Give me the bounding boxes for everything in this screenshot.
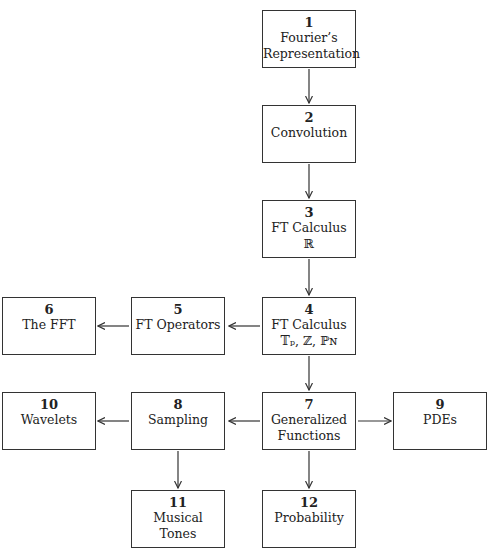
- node-label-line1: PDEs: [394, 412, 486, 428]
- node-6-the-fft: 6 The FFT: [2, 297, 96, 355]
- node-3-ft-calculus-r: 3 FT Calculus ℝ: [262, 200, 356, 258]
- node-number: 3: [263, 205, 355, 220]
- node-number: 4: [263, 302, 355, 317]
- node-number: 8: [132, 397, 224, 412]
- node-number: 7: [263, 397, 355, 412]
- node-label-line2: Representation: [263, 46, 355, 62]
- node-8-sampling: 8 Sampling: [131, 392, 225, 450]
- node-label-line1: FT Operators: [132, 317, 224, 333]
- node-2-convolution: 2 Convolution: [262, 105, 356, 163]
- node-5-ft-operators: 5 FT Operators: [131, 297, 225, 355]
- node-label-line2: Tones: [132, 526, 224, 542]
- node-label-line1: Wavelets: [3, 412, 95, 428]
- node-number: 10: [3, 397, 95, 412]
- node-number: 2: [263, 110, 355, 125]
- node-number: 1: [263, 15, 355, 30]
- node-number: 11: [132, 495, 224, 510]
- node-4-ft-calculus-discrete: 4 FT Calculus 𝕋ₚ, ℤ, ℙɴ: [262, 297, 356, 355]
- node-label-line1: Sampling: [132, 412, 224, 428]
- node-label-line1: Probability: [263, 510, 355, 526]
- edges-layer: [0, 0, 488, 550]
- node-label-line1: The FFT: [3, 317, 95, 333]
- node-label-line1: Convolution: [263, 125, 355, 141]
- node-12-probability: 12 Probability: [262, 490, 356, 548]
- node-label-line2: 𝕋ₚ, ℤ, ℙɴ: [263, 333, 355, 349]
- node-10-wavelets: 10 Wavelets: [2, 392, 96, 450]
- node-label-line1: Generalized: [263, 412, 355, 428]
- node-label-line2: ℝ: [263, 236, 355, 252]
- node-number: 5: [132, 302, 224, 317]
- node-number: 9: [394, 397, 486, 412]
- node-label-line1: FT Calculus: [263, 220, 355, 236]
- node-1-fouriers-representation: 1 Fourier’s Representation: [262, 10, 356, 68]
- node-number: 12: [263, 495, 355, 510]
- node-7-generalized-functions: 7 Generalized Functions: [262, 392, 356, 450]
- node-11-musical-tones: 11 Musical Tones: [131, 490, 225, 548]
- node-9-pdes: 9 PDEs: [393, 392, 487, 450]
- node-number: 6: [3, 302, 95, 317]
- node-label-line1: FT Calculus: [263, 317, 355, 333]
- node-label-line1: Fourier’s: [263, 30, 355, 46]
- node-label-line2: Functions: [263, 428, 355, 444]
- node-label-line1: Musical: [132, 510, 224, 526]
